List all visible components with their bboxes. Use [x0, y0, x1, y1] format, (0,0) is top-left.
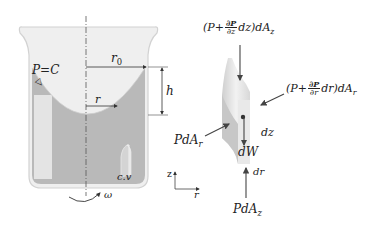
z-axis-label: z: [167, 170, 172, 179]
control-volume-label: c.v: [117, 172, 131, 182]
right-force-label: (P+∂P∂rdr)dAr: [286, 80, 356, 97]
top-force-label: (P+∂P∂zdz)dAz: [203, 19, 274, 36]
dr-label: dr: [253, 167, 264, 177]
radius-label: r: [95, 94, 100, 105]
omega-arrow: [69, 193, 100, 202]
dz-label: dz: [261, 127, 274, 138]
diagram-canvas: [0, 0, 372, 228]
bottom-force-label: PdAz: [233, 203, 262, 218]
left-force-label: PdAr: [174, 134, 202, 149]
pressure-label: P=C: [32, 64, 59, 76]
container: [19, 27, 157, 188]
outer-radius-label: r0: [111, 52, 122, 67]
omega-label: ω: [104, 190, 112, 200]
right-force-arrow: [261, 94, 284, 105]
height-label: h: [166, 85, 174, 97]
weight-label: dW: [238, 146, 258, 158]
r-axis-label: r: [194, 190, 199, 200]
